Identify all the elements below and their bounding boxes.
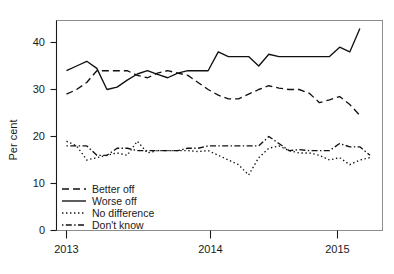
legend-label-no-difference: No difference	[92, 207, 154, 219]
y-tick-label-20: 20	[33, 130, 45, 142]
legend-label-worse-off: Worse off	[92, 195, 137, 207]
y-tick-label-0: 0	[39, 224, 45, 236]
x-tick-label-2014: 2014	[198, 243, 222, 255]
legend-label-dont-know: Don't know	[92, 219, 144, 231]
x-tick-label-2013: 2013	[54, 243, 78, 255]
legend-label-better-off: Better off	[92, 183, 134, 195]
y-tick-label-30: 30	[33, 83, 45, 95]
chart-background	[0, 0, 394, 274]
y-tick-label-40: 40	[33, 36, 45, 48]
line-chart: 0 10 20 30 40 Per cent 2013 2014 2015 Be…	[0, 0, 394, 274]
y-axis-title: Per cent	[7, 120, 19, 161]
y-tick-label-10: 10	[33, 177, 45, 189]
x-tick-label-2015: 2015	[325, 243, 349, 255]
chart-container: 0 10 20 30 40 Per cent 2013 2014 2015 Be…	[0, 0, 394, 274]
